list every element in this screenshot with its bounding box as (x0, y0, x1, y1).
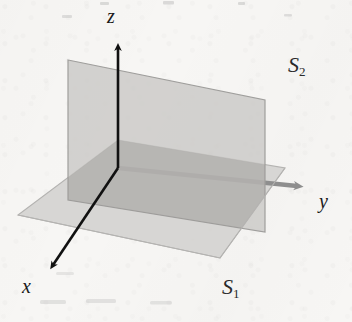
y-axis-label: y (319, 191, 328, 211)
plane-s2-label-symbol: S (288, 52, 299, 77)
z-axis-label: z (107, 6, 115, 26)
x-axis-label: x (22, 276, 31, 296)
figure-container: z x y S2 S1 (0, 0, 352, 322)
plane-s2-label: S2 (288, 54, 306, 78)
plane-s1-label: S1 (222, 276, 240, 300)
plane-s1-label-subscript: 1 (233, 286, 240, 301)
plane-s2-label-subscript: 2 (299, 64, 306, 79)
plane-s1-label-symbol: S (222, 274, 233, 299)
three-dimensional-scene (0, 0, 352, 322)
